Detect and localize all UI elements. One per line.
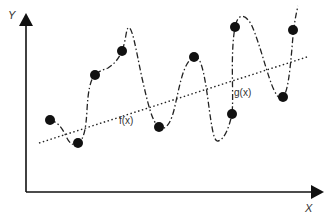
data-point <box>117 46 127 56</box>
data-point <box>288 25 298 35</box>
regression-diagram: Y X f(x) g(x) <box>0 0 329 224</box>
data-point <box>278 92 288 102</box>
g-curve <box>50 6 298 145</box>
data-point <box>227 109 237 119</box>
f-label: f(x) <box>119 115 133 126</box>
data-points <box>45 22 298 148</box>
data-point <box>90 70 100 80</box>
y-axis-arrowhead-icon <box>19 13 33 26</box>
data-point <box>45 115 55 125</box>
data-point <box>73 138 83 148</box>
x-axis-label: X <box>304 202 313 214</box>
data-point <box>230 22 240 32</box>
data-point <box>189 52 199 62</box>
g-label: g(x) <box>234 87 251 98</box>
x-axis-arrowhead-icon <box>311 185 324 199</box>
y-axis-label: Y <box>8 9 16 21</box>
data-point <box>154 122 164 132</box>
